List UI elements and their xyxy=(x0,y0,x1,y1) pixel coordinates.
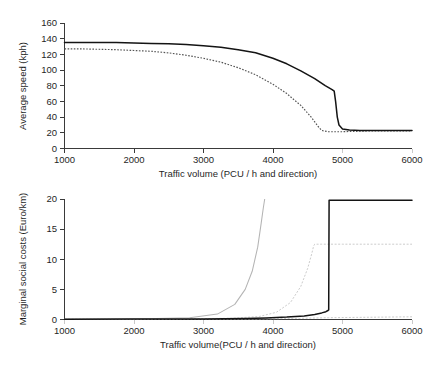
series-line-coba-cost xyxy=(65,199,265,319)
x-axis-title-bottom: Traffic volume(PCU / h and direction) xyxy=(160,339,316,350)
series-line-ews-cost xyxy=(65,200,413,319)
y-ticklabel-top-160: 160 xyxy=(41,17,57,28)
y-axis-title-bottom: Marginal social costs (Euro/km) xyxy=(17,193,28,326)
y-ticklabel-top-20: 20 xyxy=(46,127,57,138)
y-ticklabel-top-80: 80 xyxy=(46,80,57,91)
y-ticklabel-bottom-5: 5 xyxy=(52,284,57,295)
y-ticklabel-top-140: 140 xyxy=(41,33,57,44)
y-ticklabel-top-60: 60 xyxy=(46,96,57,107)
y-ticklabel-top-120: 120 xyxy=(41,49,57,60)
y-axis-title-top: Average speed (kph) xyxy=(17,42,28,130)
panel-marginal-social-costs: 0 5 10 15 20 1000 2000 3000 4000 5000 60… xyxy=(0,185,427,367)
x-ticklabel-bottom-2000: 2000 xyxy=(123,325,144,336)
y-ticklabel-top-40: 40 xyxy=(46,111,57,122)
y-ticklabel-bottom-15: 15 xyxy=(46,223,57,234)
panel-speed-flow: 0 20 40 60 80 100 120 140 160 1000 2000 … xyxy=(0,0,427,185)
x-ticklabel-top-6000: 6000 xyxy=(401,154,422,165)
x-ticklabel-bottom-1000: 1000 xyxy=(54,325,75,336)
series-line-ews-speed xyxy=(65,43,413,131)
x-ticklabel-bottom-5000: 5000 xyxy=(332,325,353,336)
figure-speed-flow-and-social-costs: 0 20 40 60 80 100 120 140 160 1000 2000 … xyxy=(0,0,427,367)
x-ticklabel-top-2000: 2000 xyxy=(123,154,144,165)
x-ticks-top xyxy=(65,149,413,154)
y-ticklabel-bottom-0: 0 xyxy=(52,314,57,325)
x-ticklabel-top-3000: 3000 xyxy=(193,154,214,165)
y-ticks-top xyxy=(60,23,65,149)
series-line-ras-w-cost xyxy=(65,244,413,319)
y-ticklabel-bottom-10: 10 xyxy=(46,254,57,265)
y-ticks-bottom xyxy=(60,199,65,320)
y-ticklabel-top-0: 0 xyxy=(52,143,57,154)
x-ticklabel-bottom-4000: 4000 xyxy=(262,325,283,336)
x-ticks-bottom xyxy=(65,320,413,325)
y-ticklabel-bottom-20: 20 xyxy=(46,193,57,204)
speed-flow-plot: 0 20 40 60 80 100 120 140 160 1000 2000 … xyxy=(0,0,427,185)
marginal-social-costs-plot: 0 5 10 15 20 1000 2000 3000 4000 5000 60… xyxy=(0,185,427,367)
x-ticklabel-top-5000: 5000 xyxy=(332,154,353,165)
x-axis-title-top: Traffic volume (PCU / h and direction) xyxy=(159,168,317,179)
x-ticklabel-bottom-3000: 3000 xyxy=(193,325,214,336)
x-ticklabel-top-1000: 1000 xyxy=(54,154,75,165)
y-ticklabel-top-100: 100 xyxy=(41,64,57,75)
x-ticklabel-bottom-6000: 6000 xyxy=(401,325,422,336)
x-ticklabel-top-4000: 4000 xyxy=(262,154,283,165)
series-line-ras-w-speed xyxy=(65,49,413,132)
